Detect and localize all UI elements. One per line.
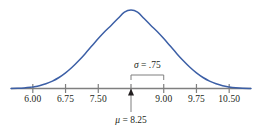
- mean-annotation-label: μ = 8.25: [115, 115, 147, 125]
- x-tick-label-6: 10.50: [218, 94, 240, 104]
- mu-equals: =: [120, 115, 130, 125]
- sigma-annotation-label: σ = .75: [134, 60, 161, 70]
- sigma-span-bracket: [131, 75, 164, 80]
- sigma-equals: =: [139, 60, 149, 70]
- mu-value: 8.25: [130, 115, 147, 125]
- x-tick-label-2: 7.50: [90, 94, 107, 104]
- mean-arrow: [128, 89, 134, 113]
- x-tick-label-0: 6.00: [24, 94, 41, 104]
- x-tick-label-4: 9.00: [155, 94, 172, 104]
- normal-distribution-figure: 6.006.757.509.009.7510.50 σ = .75 μ = 8.…: [0, 0, 259, 140]
- x-tick-label-5: 9.75: [188, 94, 205, 104]
- x-tick-label-1: 6.75: [57, 94, 74, 104]
- sigma-value: .75: [149, 60, 161, 70]
